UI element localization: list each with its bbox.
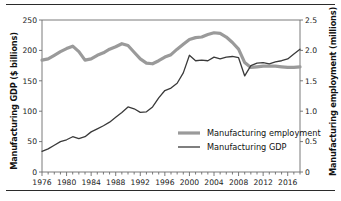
figure-container: Manufacturing GDP ($ billions) Manufactu… — [0, 0, 341, 201]
left-tick-label: 250 — [23, 16, 38, 25]
right-tick-label: 0.5 — [305, 137, 317, 146]
right-tick-label: 0 — [305, 168, 310, 177]
right-tick-label: 1.5 — [305, 77, 317, 86]
x-tick-label: 1976 — [32, 178, 51, 187]
x-axis-ticks: 1976198019841988199219962000200420082012… — [32, 172, 300, 187]
x-tick-label: 2016 — [278, 178, 297, 187]
left-tick-label: 0 — [32, 168, 37, 177]
left-tick-label: 50 — [27, 137, 37, 146]
left-tick-label: 200 — [23, 46, 38, 55]
x-tick-label: 1996 — [155, 178, 174, 187]
left-tick-label: 150 — [23, 77, 38, 86]
line-chart: 050100150200250 00.51.01.52.02.5 1976198… — [0, 0, 341, 201]
right-tick-label: 2.5 — [305, 16, 317, 25]
x-tick-label: 1992 — [131, 178, 150, 187]
left-axis-ticks: 050100150200250 — [23, 16, 43, 177]
right-axis-ticks: 00.51.01.52.02.5 — [300, 16, 317, 177]
x-tick-label: 2004 — [204, 178, 223, 187]
right-tick-label: 2.0 — [305, 46, 317, 55]
left-tick-label: 100 — [23, 107, 38, 116]
x-tick-label: 2008 — [229, 178, 248, 187]
x-tick-label: 2000 — [180, 178, 199, 187]
right-tick-label: 1.0 — [305, 107, 317, 116]
x-tick-label: 1984 — [81, 178, 100, 187]
legend-label: Manufacturing employment — [207, 128, 321, 138]
legend-label: Manufacturing GDP — [207, 142, 287, 152]
x-tick-label: 2012 — [253, 178, 272, 187]
x-tick-label: 1988 — [106, 178, 125, 187]
x-tick-label: 1980 — [57, 178, 76, 187]
